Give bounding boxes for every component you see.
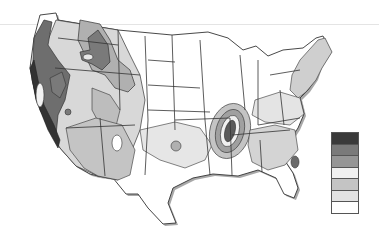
zone-central-valley-light — [36, 83, 44, 107]
zone-charleston — [291, 156, 299, 168]
zone-az-spot — [112, 135, 122, 151]
map-legend — [331, 132, 359, 214]
legend-swatch-zone5 — [332, 156, 358, 168]
legend-swatch-zone7 — [332, 133, 358, 145]
us-hazard-map — [0, 0, 379, 236]
zone-nevada-spot — [65, 109, 71, 115]
zone-plains-spot — [171, 141, 181, 151]
legend-swatch-zone4 — [332, 168, 358, 180]
zone-yellowstone-inner — [83, 54, 93, 60]
legend-swatch-zone1 — [332, 202, 358, 213]
legend-swatch-zone2 — [332, 191, 358, 203]
legend-swatch-zone3 — [332, 179, 358, 191]
legend-swatch-zone6 — [332, 145, 358, 157]
